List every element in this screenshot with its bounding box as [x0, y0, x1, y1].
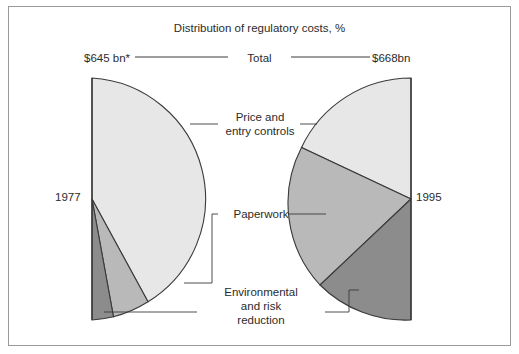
callout-price-line2: entry controls [205, 124, 315, 138]
callout-environmental-line3: reduction [199, 313, 323, 327]
chart-frame: Distribution of regulatory costs, % Tota… [0, 0, 519, 354]
callout-price-line1: Price and [205, 110, 315, 124]
right-total-value: $668bn [372, 52, 410, 64]
total-label: Total [0, 52, 519, 64]
callout-paperwork: Paperwork [216, 207, 306, 221]
callout-environmental-line1: Environmental [199, 285, 323, 299]
page-title: Distribution of regulatory costs, % [0, 22, 519, 34]
callout-environmental-line2: and risk [199, 299, 323, 313]
year-label-1995: 1995 [416, 191, 442, 203]
year-label-1977: 1977 [55, 191, 81, 203]
half-pie-1977 [92, 78, 206, 320]
callout-price-and-entry-controls: Price and entry controls [205, 110, 315, 138]
left-total-value: $645 bn* [84, 52, 130, 64]
callout-environmental-and-risk-reduction: Environmental and risk reduction [199, 285, 323, 327]
